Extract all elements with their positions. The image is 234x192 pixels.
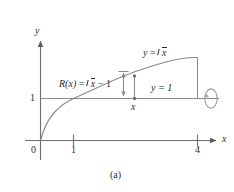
x-tick-label-1: 1	[71, 145, 76, 155]
x-axis-label: x	[222, 134, 226, 144]
region-function-label: R(x) = x − 1	[59, 78, 111, 89]
curve-equation-label: y = x	[143, 47, 167, 58]
sqrt-glyph-region: x	[87, 78, 95, 89]
region-label-radicand: x	[91, 78, 95, 89]
y-axis-label: y	[35, 26, 39, 36]
sample-point-label: x	[131, 102, 135, 112]
curve-label-equals: =	[147, 47, 158, 58]
curve-label-radicand: x	[162, 47, 166, 58]
figure-container: y x 0 1 4 1 y = x R(x) = x − 1 y = 1 x (…	[0, 0, 234, 192]
sample-point-on-curve	[133, 74, 136, 77]
region-label-equals: =	[76, 78, 87, 89]
line-label-text: y = 1	[151, 82, 172, 93]
sample-point-on-axis	[133, 97, 136, 100]
axis-of-revolution-label: y = 1	[151, 83, 172, 93]
region-label-suffix: − 1	[95, 78, 111, 89]
y-tick-label-1: 1	[30, 93, 35, 103]
x-tick-label-4: 4	[195, 145, 200, 155]
region-label-fn: R(x)	[59, 78, 76, 89]
sqrt-glyph-curve: x	[158, 47, 166, 58]
origin-tick-label: 0	[31, 145, 36, 155]
figure-caption: (a)	[110, 170, 121, 180]
